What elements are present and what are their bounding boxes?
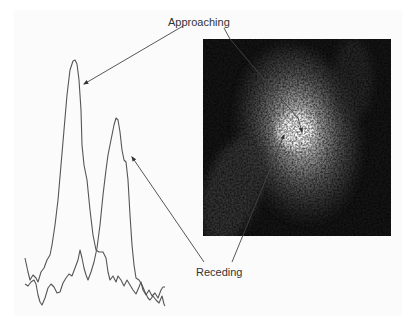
approaching-nucleus-circle (299, 137, 313, 151)
receding-profile-line (25, 118, 165, 306)
approaching-label: Approaching (168, 16, 230, 28)
approaching-arrow-to-image (224, 28, 302, 132)
annotation-layer (0, 0, 413, 329)
receding-arrow-to-spectrum (132, 157, 204, 262)
receding-arrow-to-image (232, 135, 284, 262)
receding-label: Receding (196, 266, 242, 278)
approaching-arrow-to-spectrum (84, 26, 183, 84)
receding-nucleus-circle (281, 118, 295, 132)
approaching-profile-line (25, 60, 165, 298)
